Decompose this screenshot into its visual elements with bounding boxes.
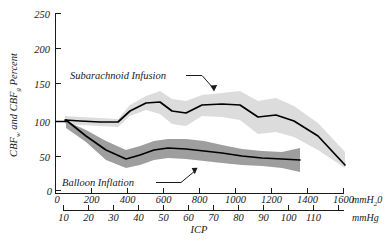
x-tick-label: 1000 — [225, 194, 247, 205]
x-tick-label-hg: 110 — [306, 212, 322, 223]
confidence-bands — [65, 91, 345, 172]
unit-labels: mmH20 mmHg — [352, 194, 382, 223]
x-tick-label-hg: 10 — [58, 212, 69, 223]
x-tick-labels-secondary: 10 20 30 40 50 60 70 80 90 100 110 — [58, 212, 321, 223]
x-tick-label-hg: 80 — [233, 212, 244, 223]
y-axis-ticks — [56, 14, 62, 191]
x-tick-label: 200 — [84, 194, 101, 205]
cbf-icp-line-chart: 250 200 150 100 50 0 0 200 400 600 800 1… — [0, 0, 389, 245]
y-tick-label: 50 — [40, 152, 51, 163]
figure-container: 250 200 150 100 50 0 0 200 400 600 800 1… — [0, 0, 389, 245]
subarachnoid-infusion-label: Subarachnoid Infusion — [70, 70, 166, 81]
unit-label-mmh2o: mmH20 — [352, 194, 382, 208]
balloon-leader-line — [156, 170, 196, 183]
x-tick-label-hg: 20 — [83, 212, 94, 223]
x-tick-label: 0 — [54, 194, 60, 205]
y-tick-label: 100 — [34, 117, 51, 128]
x-tick-label-hg: 90 — [258, 212, 269, 223]
annotation-balloon: Balloon Inflation — [62, 168, 198, 188]
x-tick-label: 800 — [192, 194, 209, 205]
x-tick-label: 400 — [120, 194, 137, 205]
y-tick-label: 250 — [34, 9, 51, 20]
x-tick-label-hg: 30 — [107, 212, 119, 223]
x-axis-primary-ticks — [56, 188, 344, 194]
annotation-subarachnoid: Subarachnoid Infusion — [70, 70, 217, 92]
x-tick-label: 1400 — [297, 194, 319, 205]
subarachnoid-arrowhead — [210, 85, 217, 91]
x-tick-label-hg: 40 — [133, 212, 144, 223]
balloon-inflation-label: Balloon Inflation — [62, 177, 134, 188]
x-tick-label-hg: 50 — [158, 212, 169, 223]
y-axis-title: CBFw and CBFg Percent — [8, 52, 22, 157]
x-tick-label-hg: 100 — [281, 212, 298, 223]
y-tick-label: 200 — [34, 44, 51, 55]
subarachnoid-leader-line — [186, 76, 214, 90]
y-tick-label-zero: 0 — [47, 186, 53, 197]
x-tick-labels-primary: 0 200 400 600 800 1000 1200 1400 1600 — [54, 194, 354, 205]
x-tick-label-hg: 60 — [183, 212, 194, 223]
x-axis-title: ICP — [190, 224, 209, 235]
x-axis-secondary-ticks — [64, 205, 339, 211]
x-tick-label-hg: 70 — [208, 212, 219, 223]
unit-label-mmhg: mmHg — [352, 212, 379, 223]
y-tick-labels: 250 200 150 100 50 0 — [34, 9, 53, 197]
x-tick-label: 600 — [156, 194, 173, 205]
y-tick-label: 150 — [34, 79, 51, 90]
x-tick-label: 1200 — [261, 194, 283, 205]
